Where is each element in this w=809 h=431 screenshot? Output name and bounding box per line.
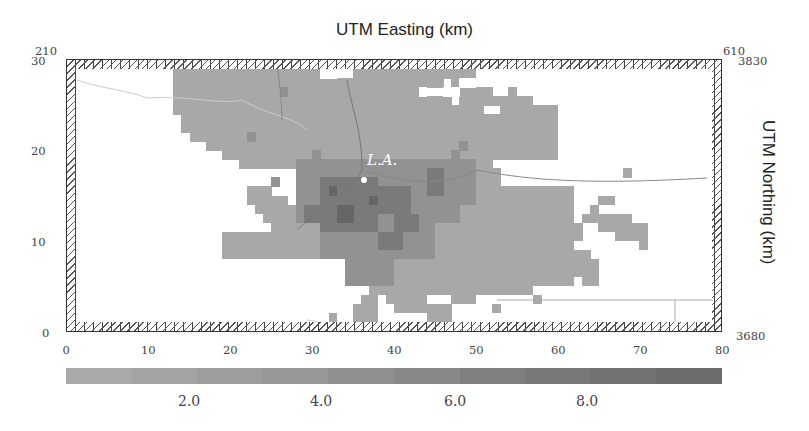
colorbar-segment [394,368,460,384]
colorbar-tick: 4.0 [310,393,332,409]
la-marker-icon [361,177,367,183]
colorbar-tick: 2.0 [178,393,200,409]
colorbar-segment [656,368,722,384]
map-area: L.A. [76,69,712,322]
map-frame: L.A. [66,59,722,332]
colorbar-segment [66,368,132,384]
x-tick: 10 [141,343,156,357]
northing-top-label: 3830 [738,54,767,68]
x-tick: 70 [633,343,648,357]
northing-bottom-label: 3680 [736,329,765,343]
colorbar-segment [328,368,394,384]
city-label: L.A. [367,151,397,169]
y-axis-title: UTM Northing (km) [756,120,778,320]
colorbar-tick: 6.0 [444,393,466,409]
colorbar-segment [263,368,329,384]
x-tick: 60 [551,343,566,357]
x-tick: 80 [715,343,730,357]
y-tick: 10 [31,235,46,249]
colorbar-tick: 8.0 [576,393,598,409]
x-tick: 40 [387,343,402,357]
x-tick: 20 [223,343,238,357]
x-tick: 30 [305,343,320,357]
y-tick: 0 [42,326,49,340]
x-tick: 50 [469,343,484,357]
x-tick: 0 [63,343,70,357]
y-tick: 20 [31,144,46,158]
colorbar [66,368,722,384]
y-tick: 30 [31,54,46,68]
x-axis-title: UTM Easting (km) [0,20,809,40]
boundary-lines [76,69,712,322]
colorbar-segment [197,368,263,384]
colorbar-segment [591,368,657,384]
colorbar-segment [525,368,591,384]
colorbar-segment [132,368,198,384]
colorbar-segment [460,368,526,384]
